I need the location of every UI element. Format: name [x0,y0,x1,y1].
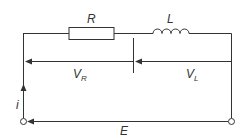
resistor [69,28,114,40]
vr-arrowhead-icon [25,59,32,65]
terminal-right [229,119,235,125]
inductor-label: L [167,12,174,26]
supply-label: E [120,124,129,138]
current-arrowhead-icon [21,84,27,91]
terminal-left [21,119,27,125]
vr-label: VR [73,67,87,83]
rl-circuit-diagram: R L VR VL i E [0,0,242,139]
current-label: i [16,98,19,112]
inductor [153,29,189,34]
resistor-label: R [87,12,96,26]
vl-label: VL [186,67,198,83]
vl-arrowhead-icon [135,59,142,65]
e-arrowhead-icon [27,119,34,125]
